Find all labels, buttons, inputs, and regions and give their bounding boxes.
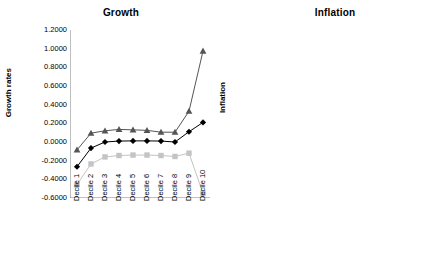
- y-axis-title-growth: Growth rates: [4, 68, 13, 117]
- data-point: [116, 138, 122, 144]
- data-point: [200, 48, 207, 54]
- data-point: [186, 108, 193, 114]
- data-point: [158, 138, 164, 144]
- data-point: [102, 139, 108, 145]
- data-point: [144, 138, 150, 144]
- data-point: [116, 153, 121, 158]
- x-axis-tick-label: Decile 3: [101, 174, 109, 201]
- y-axis-tick-label: 0.8000: [44, 64, 67, 72]
- y-axis-tick-label: 0.6000: [44, 82, 67, 90]
- x-axis-tick-label: Decile 6: [143, 174, 151, 201]
- chart-title-inflation: Inflation: [216, 7, 432, 18]
- y-axis-tick-label: -0.6000: [42, 194, 67, 202]
- chart-panel-inflation: Inflation Inflation 0.12000.10000.08000.…: [216, 0, 432, 254]
- x-axis-tick-label: Decile 2: [87, 174, 95, 201]
- x-axis-tick-label: Decile 4: [115, 174, 123, 201]
- series-line: [77, 122, 203, 166]
- x-axis-tick-label: Decile 7: [157, 174, 165, 201]
- chart-panel-growth: Growth Growth rates 1.20001.00000.80000.…: [0, 0, 216, 254]
- plot-area-growth: [70, 30, 210, 198]
- data-point: [130, 138, 136, 144]
- x-axis-tick-label: Decile 9: [185, 174, 193, 201]
- x-axis-tick-label: Decile 10: [199, 170, 207, 201]
- y-axis-title-inflation: Inflation: [218, 82, 227, 113]
- x-axis-tick-label: Decile 5: [129, 174, 137, 201]
- y-axis-tick-label: 0.0000: [44, 138, 67, 146]
- data-point: [158, 153, 163, 158]
- data-point: [186, 151, 191, 156]
- x-axis-tick-label: Decile 8: [171, 174, 179, 201]
- chart-title-growth: Growth: [0, 7, 216, 18]
- figure-container: Growth Growth rates 1.20001.00000.80000.…: [0, 0, 432, 254]
- y-axis-tick-label: 1.0000: [44, 45, 67, 53]
- x-axis-tick-label: Decile 1: [73, 174, 81, 201]
- data-point: [144, 152, 149, 157]
- plot-svg-growth: [70, 30, 210, 198]
- data-point: [172, 154, 177, 159]
- y-axis-tick-label: 0.4000: [44, 101, 67, 109]
- data-point: [200, 119, 206, 125]
- y-axis-tick-labels-growth: 1.20001.00000.80000.60000.40000.20000.00…: [26, 30, 67, 198]
- y-axis-tick-label: 0.2000: [44, 120, 67, 128]
- data-point: [130, 152, 135, 157]
- y-axis-tick-label: 1.2000: [44, 26, 67, 34]
- series-growth-upper: [74, 48, 207, 153]
- data-point: [102, 154, 107, 159]
- y-axis-tick-label: -0.2000: [42, 157, 67, 165]
- data-point: [88, 161, 93, 166]
- y-axis-tick-label: -0.4000: [42, 176, 67, 184]
- x-axis-tick-labels-growth: Decile 1Decile 2Decile 3Decile 4Decile 5…: [70, 201, 210, 253]
